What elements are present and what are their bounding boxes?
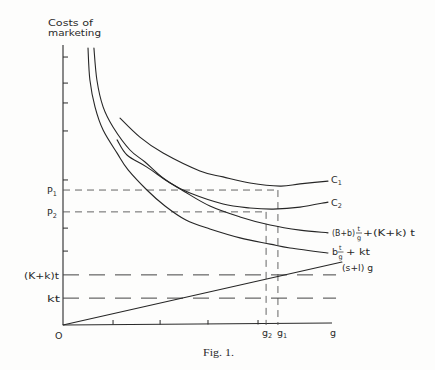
total-cost-fraction-numerator: t [358, 225, 361, 233]
y-axis-title-line2: marketing [48, 27, 101, 38]
curve-variable-cost [88, 48, 328, 253]
Kk-t-label: (K+k)t [24, 270, 59, 281]
y-axis-ticks [63, 57, 68, 251]
total-cost-label-suffix: +(K+k) t [363, 227, 415, 238]
origin-label: O [55, 330, 62, 341]
variable-cost-fraction-denominator: g [339, 253, 343, 261]
x-axis-label: g [330, 327, 336, 338]
curve-total-cost [94, 48, 328, 233]
kt-label: kt [47, 293, 60, 304]
x-axis [63, 323, 332, 325]
c2-label: C2 [331, 197, 342, 210]
g1-label: g1 [277, 327, 287, 340]
variable-cost-label-suffix: + kt [346, 246, 370, 257]
curve-c2 [117, 140, 328, 209]
variable-cost-fraction-numerator: t [339, 244, 342, 252]
variable-cost-label: b t g + kt [332, 244, 370, 261]
s-plus-l-g-label: (s+l) g [342, 262, 373, 273]
line-s-plus-l-g [63, 262, 342, 325]
marketing-cost-figure: Costs of marketing P1 P2 (K+k)t kt O g2 … [0, 0, 435, 370]
curve-c1 [120, 118, 328, 186]
g2-label: g2 [262, 327, 272, 340]
total-cost-fraction-denominator: g [357, 234, 361, 242]
p1-label: P1 [47, 185, 57, 198]
total-cost-label: (B+b) t g +(K+k) t [332, 225, 415, 242]
c1-label: C1 [331, 174, 342, 187]
p2-label: P2 [47, 207, 57, 220]
variable-cost-label-prefix: b [332, 246, 338, 257]
total-cost-label-prefix: (B+b) [332, 227, 355, 238]
figure-caption: Fig. 1. [203, 347, 234, 358]
